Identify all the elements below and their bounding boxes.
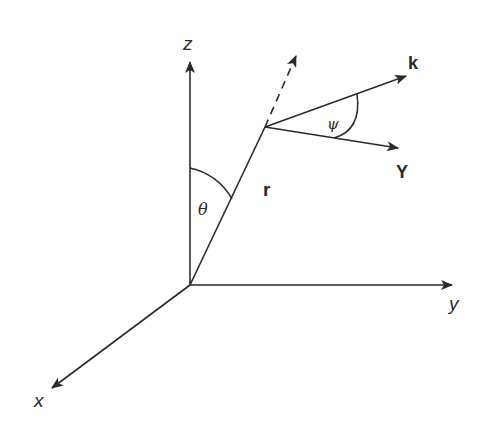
r-vector-label: r: [263, 179, 271, 200]
diagram-canvas: z y x r k Y θ ψ: [0, 0, 486, 436]
coordinate-diagram: z y x r k Y θ ψ: [0, 0, 486, 436]
k-vector-label: k: [408, 53, 419, 73]
Y-vector-label: Y: [396, 162, 408, 182]
y-axis-label: y: [447, 293, 460, 314]
x-axis-label: x: [33, 390, 45, 411]
psi-label: ψ: [327, 115, 339, 133]
theta-arc: [190, 168, 232, 199]
z-axis-label: z: [182, 33, 193, 54]
theta-label: θ: [198, 200, 208, 219]
x-axis: [52, 285, 190, 388]
r-extension-dashed: [265, 56, 296, 127]
